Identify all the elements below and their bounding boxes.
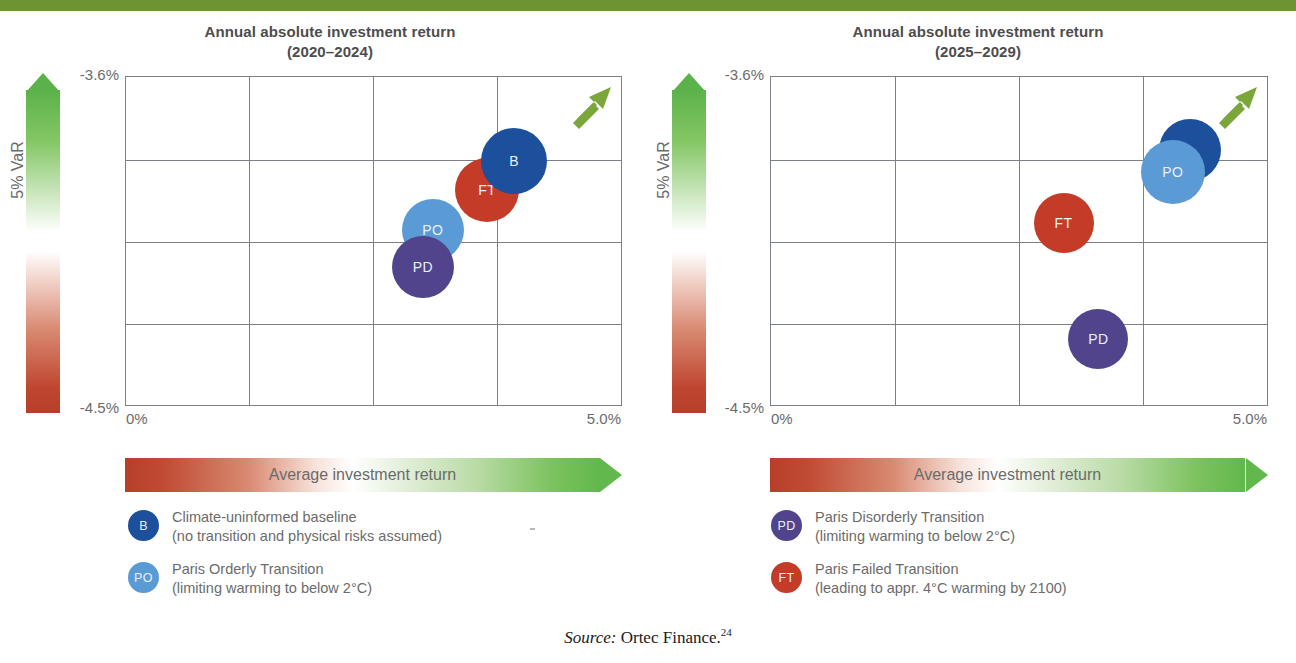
y-tick-top-right: -3.6%: [725, 66, 764, 83]
bubble-po[interactable]: PO: [1141, 140, 1205, 204]
up-right-trend-arrow-icon: [1213, 83, 1259, 129]
legend-label: Paris Orderly Transition (limiting warmi…: [172, 560, 372, 598]
chart-title-main: Annual absolute investment return: [205, 23, 456, 40]
legend-marker-pd: PD: [771, 510, 802, 541]
chart-title-period: (2025–2029): [698, 42, 1258, 62]
source-name: Ortec Finance.: [616, 628, 720, 647]
plot-area-right: -3.6% -4.5% 0% 5.0% POFTPD: [770, 76, 1268, 406]
legend-marker-po: PO: [128, 562, 159, 593]
bubble-pd[interactable]: PD: [1068, 309, 1128, 369]
y-tick-top-left: -3.6%: [80, 66, 119, 83]
source-prefix: Source:: [564, 628, 616, 647]
legend-line-2: (limiting warming to below 2°C): [815, 527, 1015, 546]
legend-label: Paris Failed Transition (leading to appr…: [815, 560, 1067, 598]
legend-item[interactable]: B Climate-uninformed baseline (no transi…: [128, 508, 442, 546]
var-gradient-arrow-left: [26, 73, 60, 413]
bubble-ft[interactable]: FT: [1034, 193, 1094, 253]
legend-right: PD Paris Disorderly Transition (limiting…: [771, 508, 1067, 612]
legend-item[interactable]: PO Paris Orderly Transition (limiting wa…: [128, 560, 442, 598]
legend-item[interactable]: FT Paris Failed Transition (leading to a…: [771, 560, 1067, 598]
gridline-h-3: [771, 324, 1267, 325]
y-tick-bottom-right: -4.5%: [725, 399, 764, 416]
return-arrow-head-icon: [600, 458, 622, 492]
x-tick-right-left: 5.0%: [587, 410, 621, 427]
chart-title-right: Annual absolute investment return (2025–…: [698, 22, 1258, 62]
chart-title-main: Annual absolute investment return: [853, 23, 1104, 40]
plot-area-left: -3.6% -4.5% 0% 5.0% BFTPOPD: [125, 76, 622, 406]
var-arrow-shaft: [672, 90, 706, 413]
gridline-h-2: [771, 242, 1267, 243]
legend-line-1: Paris Failed Transition: [815, 561, 958, 577]
legend-marker-b: B: [128, 510, 159, 541]
x-tick-left-left: 0%: [126, 410, 148, 427]
legend-line-1: Paris Orderly Transition: [172, 561, 324, 577]
return-gradient-arrow-right: Average investment return: [770, 458, 1268, 492]
legend-marker-ft: FT: [771, 562, 802, 593]
source-line: Source: Ortec Finance.24: [0, 626, 1296, 648]
chart-title-period: (2020–2024): [50, 42, 610, 62]
x-tick-right-right: 5.0%: [1233, 410, 1267, 427]
chart-panel-left: Annual absolute investment return (2020–…: [0, 11, 648, 621]
y-axis-label-right: 5% VaR: [655, 120, 673, 220]
return-gradient-arrow-left: Average investment return: [125, 458, 622, 492]
chart-title-left: Annual absolute investment return (2020–…: [50, 22, 610, 62]
var-arrow-shaft: [26, 90, 60, 413]
legend-label: Paris Disorderly Transition (limiting wa…: [815, 508, 1015, 546]
x-tick-left-right: 0%: [771, 410, 793, 427]
y-axis-label-left: 5% VaR: [9, 120, 27, 220]
gridline-h-2: [126, 242, 621, 243]
top-green-bar: [0, 0, 1296, 11]
bubble-pd[interactable]: PD: [392, 236, 454, 298]
legend-item[interactable]: PD Paris Disorderly Transition (limiting…: [771, 508, 1067, 546]
stray-mark: [530, 528, 535, 530]
y-tick-bottom-left: -4.5%: [80, 399, 119, 416]
legend-line-2: (leading to appr. 4°C warming by 2100): [815, 579, 1067, 598]
return-arrow-head-icon: [1246, 458, 1268, 492]
x-axis-label-left: Average investment return: [125, 458, 600, 492]
legend-left: B Climate-uninformed baseline (no transi…: [128, 508, 442, 612]
legend-line-1: Climate-uninformed baseline: [172, 509, 357, 525]
legend-line-2: (limiting warming to below 2°C): [172, 579, 372, 598]
legend-line-2: (no transition and physical risks assume…: [172, 527, 442, 546]
gridline-h-3: [126, 324, 621, 325]
x-axis-label-right: Average investment return: [770, 458, 1245, 492]
source-footnote: 24: [721, 626, 732, 638]
legend-line-1: Paris Disorderly Transition: [815, 509, 984, 525]
legend-label: Climate-uninformed baseline (no transiti…: [172, 508, 442, 546]
var-gradient-arrow-right: [672, 73, 706, 413]
chart-panel-right: Annual absolute investment return (2025–…: [648, 11, 1296, 621]
bubble-b[interactable]: B: [481, 128, 547, 194]
up-right-trend-arrow-icon: [567, 83, 613, 129]
